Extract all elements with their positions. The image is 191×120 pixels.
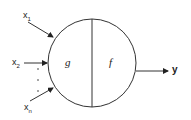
input-arrow-1	[28, 22, 53, 37]
ellipsis-dot	[37, 68, 39, 70]
input-label-1: x1	[23, 11, 31, 22]
ellipsis-dot	[37, 90, 39, 92]
output-label-y: y	[172, 65, 178, 75]
input-arrow-n	[30, 88, 53, 101]
node-label-g: g	[65, 57, 71, 68]
input-label-2: x2	[12, 58, 20, 69]
input-label-n: xn	[24, 103, 32, 114]
ellipsis-dot	[37, 79, 39, 81]
node-label-f: f	[109, 57, 112, 68]
